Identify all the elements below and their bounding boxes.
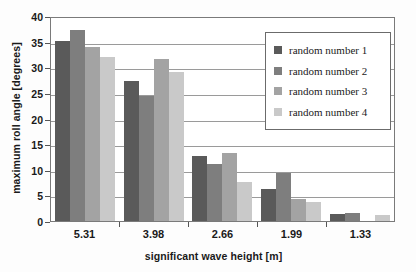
bar xyxy=(154,59,169,221)
bar xyxy=(345,213,360,221)
y-tick-mark xyxy=(45,17,50,18)
bar xyxy=(169,72,184,221)
bar xyxy=(100,57,115,221)
legend-label: random number 2 xyxy=(289,65,367,77)
bar xyxy=(55,41,70,221)
legend: random number 1random number 2random num… xyxy=(265,32,391,130)
legend-swatch-icon xyxy=(274,46,282,54)
bar xyxy=(139,96,154,221)
bar xyxy=(222,153,237,221)
bar xyxy=(375,215,390,221)
y-tick-label: 35 xyxy=(0,37,43,49)
y-tick-label: 10 xyxy=(0,165,43,177)
bar xyxy=(85,47,100,221)
legend-label: random number 1 xyxy=(289,44,367,56)
bar xyxy=(261,189,276,221)
legend-item: random number 3 xyxy=(274,85,382,97)
bar xyxy=(70,30,85,221)
x-tick-mark xyxy=(257,222,258,227)
x-tick-label: 3.98 xyxy=(119,228,189,240)
bar xyxy=(192,156,207,221)
y-tick-mark xyxy=(45,68,50,69)
x-tick-label: 2.66 xyxy=(188,228,258,240)
bar-group xyxy=(120,18,189,221)
y-tick-label: 25 xyxy=(0,88,43,100)
bar xyxy=(124,81,139,221)
x-tick-mark xyxy=(326,222,327,227)
bar-group xyxy=(188,18,257,221)
y-tick-mark xyxy=(45,94,50,95)
x-tick-label: 5.31 xyxy=(50,228,120,240)
y-tick-mark xyxy=(45,222,50,223)
bar xyxy=(306,202,321,221)
x-tick-label: 1.33 xyxy=(326,228,396,240)
legend-swatch-icon xyxy=(274,108,282,116)
x-tick-label: 1.99 xyxy=(257,228,327,240)
legend-swatch-icon xyxy=(274,67,282,75)
legend-label: random number 3 xyxy=(289,85,367,97)
x-tick-mark xyxy=(119,222,120,227)
bar xyxy=(207,164,222,221)
y-tick-label: 40 xyxy=(0,11,43,23)
legend-item: random number 2 xyxy=(274,65,382,77)
x-tick-mark xyxy=(188,222,189,227)
x-axis-label: significant wave height [m] xyxy=(41,250,386,262)
chart-figure: maximum roll angle [degrees] 05101520253… xyxy=(0,0,416,272)
y-tick-label: 5 xyxy=(0,190,43,202)
bar xyxy=(237,182,252,221)
bar xyxy=(276,173,291,221)
y-tick-label: 30 xyxy=(0,62,43,74)
y-tick-label: 0 xyxy=(0,216,43,228)
y-tick-mark xyxy=(45,120,50,121)
y-tick-label: 15 xyxy=(0,139,43,151)
legend-label: random number 4 xyxy=(289,106,367,118)
y-tick-label: 20 xyxy=(0,114,43,126)
y-tick-mark xyxy=(45,171,50,172)
legend-item: random number 1 xyxy=(274,44,382,56)
bar xyxy=(291,199,306,221)
bar-group xyxy=(51,18,120,221)
legend-swatch-icon xyxy=(274,87,282,95)
y-tick-mark xyxy=(45,43,50,44)
legend-item: random number 4 xyxy=(274,106,382,118)
bar xyxy=(330,214,345,221)
y-tick-mark xyxy=(45,145,50,146)
y-tick-mark xyxy=(45,196,50,197)
